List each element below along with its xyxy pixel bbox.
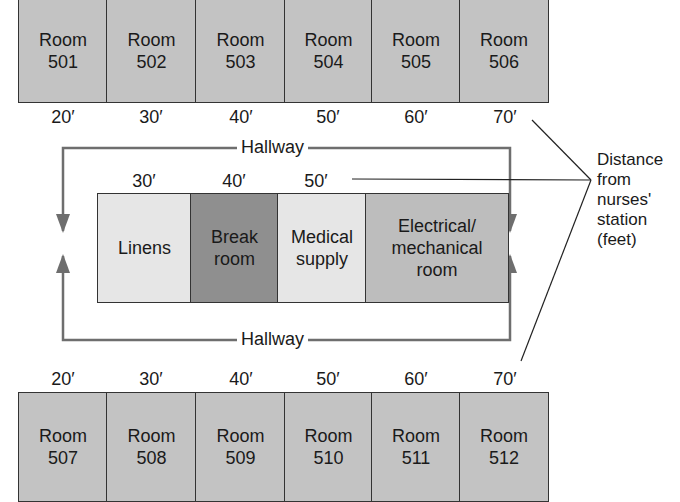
room-name: Linens [118, 238, 171, 258]
room-number: 505 [392, 51, 440, 73]
room-510: Room510 [284, 392, 373, 502]
room-label: Room [480, 29, 528, 51]
medical-supply-room: Medicalsupply [277, 193, 367, 303]
legend-line: station [597, 210, 663, 230]
room-number: 502 [127, 51, 175, 73]
room-507: Room507 [18, 392, 108, 502]
distance-legend: Distance from nurses' station (feet) [597, 150, 663, 250]
room-511: Room511 [371, 392, 461, 502]
room-label: Room [39, 425, 87, 447]
room-name-line3: room [391, 259, 482, 281]
room-number: 507 [39, 447, 87, 469]
room-label: Room [392, 425, 440, 447]
room-number: 501 [39, 51, 87, 73]
break-room: Breakroom [190, 193, 279, 303]
room-name-line2: supply [291, 248, 353, 270]
linens-room: Linens [97, 193, 192, 303]
room-504: Room504 [284, 0, 373, 103]
legend-line: (feet) [597, 230, 663, 250]
room-509: Room509 [195, 392, 286, 502]
room-number: 509 [216, 447, 264, 469]
room-name-line1: Electrical/ [391, 215, 482, 237]
leader-line-top [532, 120, 591, 180]
distance-label: 30′ [114, 171, 174, 192]
room-501: Room501 [18, 0, 108, 103]
room-label: Room [392, 29, 440, 51]
distance-label: 40′ [211, 369, 271, 390]
room-508: Room508 [106, 392, 197, 502]
hallway-label-top: Hallway [237, 137, 308, 158]
distance-label: 60′ [386, 107, 446, 128]
hallway-label-bottom: Hallway [237, 329, 308, 350]
arrow-up-left-icon [56, 254, 70, 273]
leader-line-middle [352, 179, 591, 180]
room-label: Room [127, 29, 175, 51]
legend-line: nurses' [597, 190, 663, 210]
distance-label: 50′ [298, 369, 358, 390]
room-number: 508 [127, 447, 175, 469]
distance-label: 50′ [298, 107, 358, 128]
arrow-down-left-icon [56, 214, 70, 233]
room-label: Room [39, 29, 87, 51]
distance-label: 30′ [121, 369, 181, 390]
distance-label: 70′ [475, 107, 535, 128]
room-label: Room [216, 425, 264, 447]
room-number: 506 [480, 51, 528, 73]
distance-label: 20′ [33, 369, 93, 390]
room-label: Room [304, 425, 352, 447]
leader-line-bottom [521, 180, 591, 361]
room-512: Room512 [459, 392, 549, 502]
room-505: Room505 [371, 0, 461, 103]
distance-label: 40′ [204, 171, 264, 192]
distance-label: 60′ [386, 369, 446, 390]
room-number: 511 [392, 447, 440, 469]
distance-label: 30′ [121, 107, 181, 128]
legend-line: from [597, 170, 663, 190]
electrical-mechanical-room: Electrical/mechanicalroom [365, 193, 509, 303]
legend-line: Distance [597, 150, 663, 170]
distance-label: 50′ [291, 171, 341, 192]
room-label: Room [304, 29, 352, 51]
room-label: Room [480, 425, 528, 447]
distance-label: 70′ [475, 369, 535, 390]
room-number: 510 [304, 447, 352, 469]
room-name-line1: Medical [291, 226, 353, 248]
room-label: Room [127, 425, 175, 447]
room-506: Room506 [459, 0, 549, 103]
room-label: Room [216, 29, 264, 51]
room-503: Room503 [195, 0, 286, 103]
room-502: Room502 [106, 0, 197, 103]
room-name-line2: mechanical [391, 237, 482, 259]
room-name-line1: Break [211, 226, 258, 248]
room-number: 512 [480, 447, 528, 469]
room-number: 503 [216, 51, 264, 73]
room-number: 504 [304, 51, 352, 73]
distance-label: 40′ [211, 107, 271, 128]
distance-label: 20′ [33, 107, 93, 128]
room-name-line2: room [211, 248, 258, 270]
